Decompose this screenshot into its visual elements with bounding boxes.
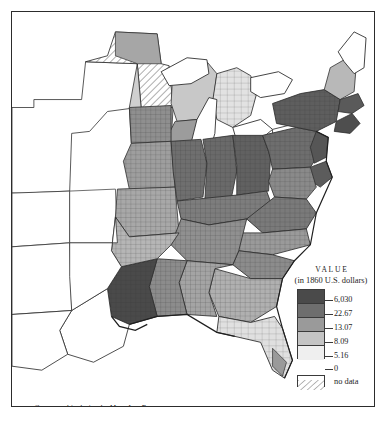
legend-subtitle: (in 1860 U.S. dollars) — [270, 275, 375, 287]
legend-scale: 6,030 22.67 13.07 8.09 5.16 0 — [270, 289, 375, 363]
figure-root: VALUE (in 1860 U.S. dollars) 6,030 22.67 — [0, 0, 388, 425]
hatch-pattern-icon — [298, 380, 324, 390]
legend-swatch-column — [297, 289, 325, 359]
legend-nodata-row: no data — [297, 371, 358, 389]
legend-tick-label: 5.16 — [334, 352, 348, 360]
legend-tick-line — [325, 314, 333, 315]
legend-swatch-0 — [298, 290, 324, 304]
legend-tick-line — [325, 369, 333, 370]
legend-nodata-swatch — [297, 375, 325, 387]
legend-tick-line — [325, 300, 333, 301]
legend-tick-line — [325, 342, 333, 343]
cartographer-credit: Cartographic design by Mary Lee Eggart — [34, 404, 163, 407]
legend-swatch-3 — [298, 332, 324, 346]
map-frame: VALUE (in 1860 U.S. dollars) 6,030 22.67 — [11, 11, 375, 407]
legend-swatch-4 — [298, 346, 324, 360]
legend-tick-line — [325, 356, 333, 357]
legend-nodata-label: no data — [334, 377, 358, 386]
legend-tick-line — [325, 328, 333, 329]
legend-title: VALUE — [270, 264, 375, 275]
legend-swatch-1 — [298, 304, 324, 318]
map-legend: VALUE (in 1860 U.S. dollars) 6,030 22.67 — [270, 264, 375, 363]
legend-swatch-2 — [298, 318, 324, 332]
